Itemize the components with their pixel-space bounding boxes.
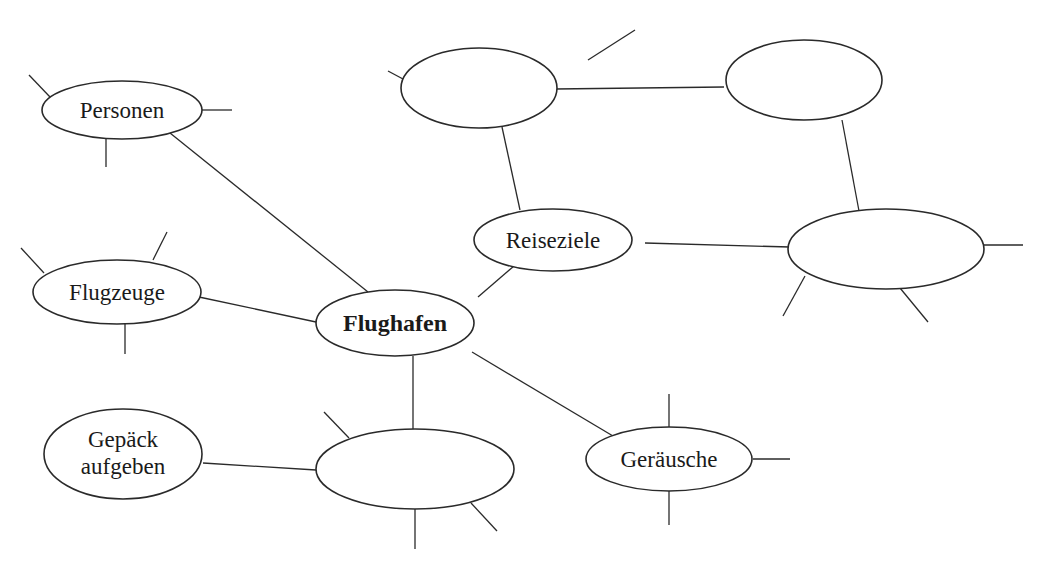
node-empty-bottom — [316, 429, 514, 509]
edge-flughafen-reiseziele — [478, 266, 514, 297]
spoke — [324, 412, 349, 438]
node-label-line1: Gepäck — [88, 427, 159, 452]
edges — [170, 87, 859, 470]
node-geraeusche: Geräusche — [586, 427, 752, 491]
node-flughafen: Flughafen — [316, 290, 474, 356]
spoke — [900, 288, 928, 322]
node-label: Geräusche — [620, 447, 717, 472]
spoke — [783, 276, 805, 316]
edge-empty-bottom-gepaeck — [203, 463, 316, 470]
node-label: Reiseziele — [506, 228, 601, 253]
node-gepaeck-aufgeben: Gepäck aufgeben — [44, 409, 202, 499]
node-flugzeuge: Flugzeuge — [33, 260, 201, 324]
spoke — [471, 503, 497, 531]
node-label: Flugzeuge — [69, 280, 165, 305]
edge-reiseziele-empty-top-left — [502, 127, 520, 210]
edge-empty-top-right-empty-right — [842, 120, 859, 211]
spoke — [153, 232, 167, 260]
edge-flughafen-geraeusche — [472, 352, 613, 436]
node-label-line2: aufgeben — [81, 454, 166, 479]
spoke — [21, 248, 44, 273]
node-empty-right — [788, 209, 984, 289]
node-empty-top-left — [401, 48, 557, 128]
edge-flughafen-personen — [170, 133, 368, 292]
node-reiseziele: Reiseziele — [474, 209, 632, 271]
edge-flughafen-flugzeuge — [199, 297, 316, 322]
node-label: Personen — [80, 98, 165, 123]
edge-reiseziele-empty-right — [645, 243, 790, 247]
spoke — [588, 30, 635, 60]
spoke — [29, 75, 50, 97]
node-personen: Personen — [42, 81, 202, 139]
mind-map-diagram: Personen Flugzeuge Flughafen Gepäck aufg… — [0, 0, 1062, 570]
node-label-center: Flughafen — [343, 310, 447, 336]
node-empty-top-right — [726, 40, 882, 120]
spoke — [388, 71, 403, 79]
edge-empty-top-left-empty-top-right — [555, 87, 724, 89]
